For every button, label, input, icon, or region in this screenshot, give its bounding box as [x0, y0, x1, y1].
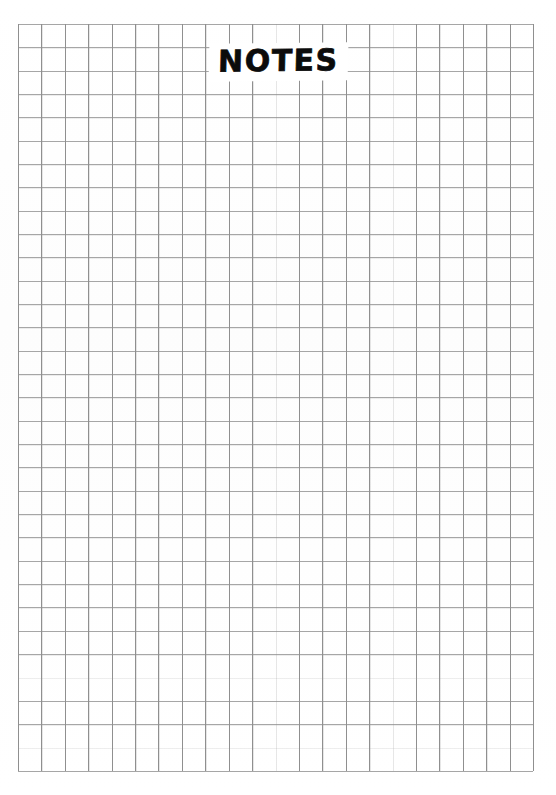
grid-paper-area	[18, 24, 533, 771]
grid-right-border	[533, 24, 534, 771]
notes-page: NOTES	[0, 0, 556, 795]
grid-lines	[18, 24, 533, 771]
grid-bottom-border	[18, 771, 533, 772]
